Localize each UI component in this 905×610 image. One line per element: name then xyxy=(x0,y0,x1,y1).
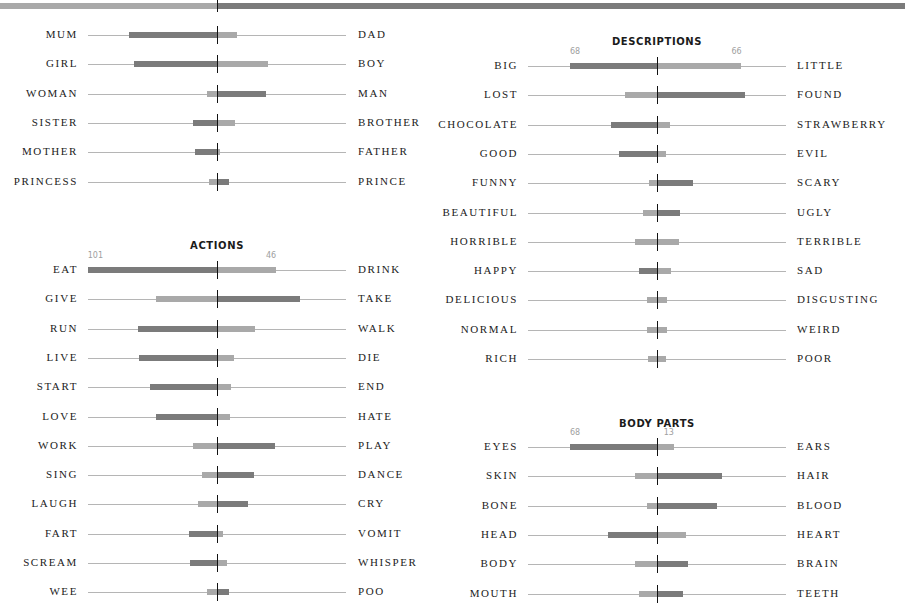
chart-row: BODYBRAIN xyxy=(0,554,905,574)
left-value-bar xyxy=(150,384,217,390)
right-value-bar xyxy=(657,180,693,186)
left-value-bar xyxy=(570,63,657,69)
right-word-label: HAIR xyxy=(797,469,830,481)
left-word-label: SKIN xyxy=(486,469,518,481)
right-value-bar xyxy=(657,151,666,157)
chart-row: HORRIBLETERRIBLE xyxy=(0,232,905,252)
left-value-bar xyxy=(619,151,657,157)
center-tick xyxy=(657,321,658,339)
left-value-label: 68 xyxy=(570,428,580,437)
center-tick xyxy=(657,145,658,163)
right-value-bar xyxy=(657,297,667,303)
left-word-label: EYES xyxy=(484,440,518,452)
right-value-bar xyxy=(657,268,671,274)
left-word-label: HEAD xyxy=(481,528,518,540)
chart-row: STARTEND xyxy=(0,377,905,397)
left-word-label: LOST xyxy=(484,88,518,100)
cropped-bar-right xyxy=(217,3,905,9)
right-value-bar xyxy=(657,327,667,333)
center-tick xyxy=(657,86,658,104)
right-word-label: BRAIN xyxy=(797,557,839,569)
left-word-label: FUNNY xyxy=(472,176,518,188)
left-word-label: BIG xyxy=(494,59,518,71)
center-tick xyxy=(657,116,658,134)
right-word-label: STRAWBERRY xyxy=(797,118,887,130)
cropped-bar-top xyxy=(0,3,905,9)
left-value-bar xyxy=(647,327,657,333)
center-tick xyxy=(657,233,658,251)
left-word-label: BONE xyxy=(482,499,518,511)
chart-row: SKINHAIR xyxy=(0,466,905,486)
chart-row: RICHPOOR xyxy=(0,349,905,369)
chart-row: EYESEARS6813 xyxy=(0,437,905,457)
center-tick xyxy=(657,526,658,544)
right-value-label: 46 xyxy=(266,251,276,260)
chart-row: HAPPYSAD xyxy=(0,261,905,281)
right-value-bar xyxy=(657,63,741,69)
center-tick xyxy=(657,350,658,368)
right-word-label: FOUND xyxy=(797,88,843,100)
right-word-label: HATE xyxy=(358,410,393,422)
right-value-bar xyxy=(217,32,237,38)
chart-row: MUMDAD xyxy=(0,25,905,45)
right-word-label: HEART xyxy=(797,528,841,540)
center-tick xyxy=(657,57,658,75)
chart-row: BONEBLOOD xyxy=(0,496,905,516)
left-word-label: MOUTH xyxy=(470,587,518,599)
group-heading: BODY PARTS xyxy=(619,418,695,429)
right-value-bar xyxy=(657,210,680,216)
right-word-label: WEIRD xyxy=(797,323,841,335)
left-word-label: NORMAL xyxy=(461,323,518,335)
center-tick xyxy=(657,204,658,222)
cropped-center-tick xyxy=(217,0,218,12)
center-tick xyxy=(657,438,658,456)
chart-row: GOODEVIL xyxy=(0,144,905,164)
chart-row: BIGLITTLE6866 xyxy=(0,56,905,76)
chart-row: FUNNYSCARY xyxy=(0,173,905,193)
center-tick xyxy=(657,262,658,280)
chart-row: MOUTHTEETH xyxy=(0,584,905,604)
left-value-bar xyxy=(635,473,657,479)
center-tick xyxy=(657,174,658,192)
left-word-label: START xyxy=(37,380,78,392)
left-value-bar xyxy=(625,92,657,98)
group-heading: DESCRIPTIONS xyxy=(612,36,702,47)
left-value-bar xyxy=(639,268,657,274)
chart-row: BEAUTIFULUGLY xyxy=(0,203,905,223)
right-value-label: 66 xyxy=(731,47,741,56)
right-word-label: DISGUSTING xyxy=(797,293,879,305)
right-value-bar xyxy=(217,414,230,420)
left-word-label: MUM xyxy=(46,28,78,40)
center-tick xyxy=(657,555,658,573)
left-value-bar xyxy=(608,532,657,538)
left-value-bar xyxy=(643,210,657,216)
right-value-bar xyxy=(657,473,722,479)
left-value-bar xyxy=(570,444,657,450)
right-value-label: 13 xyxy=(664,428,674,437)
left-word-label: BEAUTIFUL xyxy=(442,206,518,218)
right-value-bar xyxy=(657,444,674,450)
right-value-bar xyxy=(657,356,666,362)
right-word-label: EVIL xyxy=(797,147,828,159)
right-word-label: BLOOD xyxy=(797,499,843,511)
chart-row: NORMALWEIRD xyxy=(0,320,905,340)
right-word-label: DAD xyxy=(358,28,387,40)
right-word-label: SAD xyxy=(797,264,824,276)
left-word-label: HAPPY xyxy=(474,264,518,276)
cropped-bar-left xyxy=(0,3,217,9)
right-value-bar xyxy=(657,239,679,245)
left-word-label: BODY xyxy=(480,557,518,569)
chart-row: HEADHEART xyxy=(0,525,905,545)
left-value-bar xyxy=(647,503,657,509)
right-value-bar xyxy=(657,561,688,567)
right-word-label: POOR xyxy=(797,352,833,364)
center-tick xyxy=(217,408,218,426)
left-word-label: HORRIBLE xyxy=(450,235,518,247)
left-word-label: DELICIOUS xyxy=(446,293,518,305)
right-value-bar xyxy=(657,591,683,597)
left-value-bar xyxy=(611,122,657,128)
left-value-bar xyxy=(129,32,217,38)
right-word-label: TEETH xyxy=(797,587,840,599)
center-tick xyxy=(217,26,218,44)
right-value-bar xyxy=(657,503,717,509)
